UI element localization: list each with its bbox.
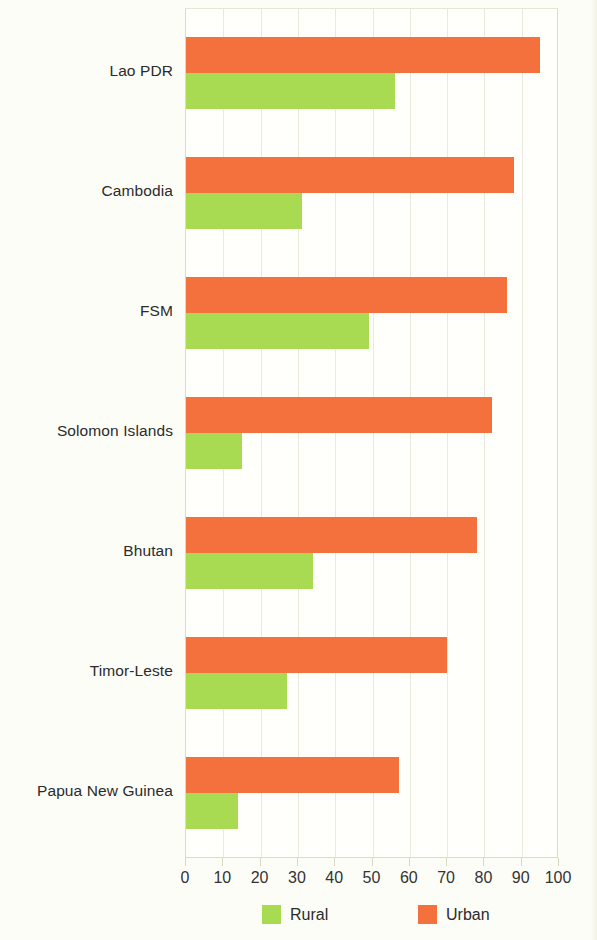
category-label: Lao PDR [0,62,173,80]
legend-swatch-icon [262,905,281,924]
category-label: FSM [0,302,173,320]
bar-group [186,637,557,709]
category-label: Timor-Leste [0,662,173,680]
bar-urban[interactable] [186,757,399,793]
bar-urban[interactable] [186,637,447,673]
category-label: Solomon Islands [0,422,173,440]
bar-urban[interactable] [186,397,492,433]
x-tick-20 [260,858,261,866]
legend-label: Rural [290,906,328,924]
legend-item-urban[interactable]: Urban [418,905,490,924]
bar-group [186,757,557,829]
bar-urban[interactable] [186,157,514,193]
bar-urban[interactable] [186,277,507,313]
bar-group [186,277,557,349]
bar-group [186,37,557,109]
x-tick-40 [334,858,335,866]
category-label: Bhutan [0,542,173,560]
x-tick-0 [185,858,186,866]
bar-urban[interactable] [186,37,540,73]
bar-urban[interactable] [186,517,477,553]
x-axis-ticks [185,858,558,867]
x-tick-label: 80 [474,869,492,887]
x-tick-label: 70 [437,869,455,887]
x-tick-label: 40 [325,869,343,887]
x-tick-label: 0 [181,869,190,887]
x-axis-tick-labels: 0102030405060708090100 [0,869,597,895]
scan-edge-gradient [590,0,597,940]
legend-item-rural[interactable]: Rural [262,905,328,924]
bar-group [186,397,557,469]
grouped-bar-chart: Lao PDRCambodiaFSMSolomon IslandsBhutanT… [0,0,597,940]
bar-rural[interactable] [186,793,238,829]
plot-area [185,8,558,858]
bar-rural[interactable] [186,553,313,589]
legend-label: Urban [446,906,490,924]
bar-rural[interactable] [186,73,395,109]
x-tick-10 [222,858,223,866]
x-tick-label: 10 [213,869,231,887]
chart-legend: RuralUrban [0,905,597,935]
bar-rural[interactable] [186,193,302,229]
bar-rural[interactable] [186,313,369,349]
bar-group [186,157,557,229]
x-tick-label: 60 [400,869,418,887]
x-tick-label: 50 [363,869,381,887]
x-tick-70 [446,858,447,866]
x-tick-100 [558,858,559,866]
category-label: Papua New Guinea [0,782,173,800]
bar-rural[interactable] [186,433,242,469]
x-tick-90 [521,858,522,866]
x-tick-label: 30 [288,869,306,887]
legend-swatch-icon [418,905,437,924]
x-tick-label: 100 [545,869,572,887]
bar-rural[interactable] [186,673,287,709]
x-tick-80 [483,858,484,866]
x-tick-label: 20 [251,869,269,887]
bar-groups [186,9,557,857]
category-label: Cambodia [0,182,173,200]
x-tick-30 [297,858,298,866]
category-axis-labels: Lao PDRCambodiaFSMSolomon IslandsBhutanT… [0,8,173,858]
bar-group [186,517,557,589]
x-tick-50 [372,858,373,866]
x-tick-60 [409,858,410,866]
x-tick-label: 90 [512,869,530,887]
